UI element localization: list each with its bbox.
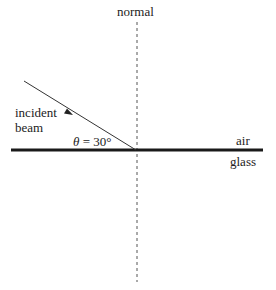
beam-arrowhead-icon xyxy=(64,109,73,116)
incident-label-line1: incident xyxy=(15,105,57,120)
angle-label: θ = 30° xyxy=(73,134,111,149)
refraction-diagram: normal incident beam θ = 30° air glass xyxy=(0,0,276,290)
air-label: air xyxy=(236,133,250,148)
angle-value: = 30° xyxy=(79,134,111,149)
incident-label-line2: beam xyxy=(15,120,43,135)
diagram-canvas xyxy=(0,0,276,290)
normal-label: normal xyxy=(117,4,154,19)
glass-label: glass xyxy=(230,154,256,169)
